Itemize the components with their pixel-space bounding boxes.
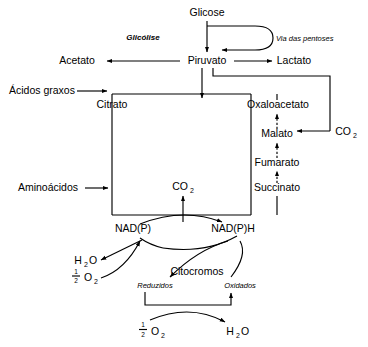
edge-half-o2-h2o-bottom — [150, 312, 225, 322]
fraction-denominator-half-o2-left: 2 — [74, 277, 78, 284]
node-label-h2o-bottom: H — [226, 325, 234, 337]
pyruvate-row-group: Acetato Piruvato Lactato — [59, 54, 311, 66]
edge-nadph-to-nadp-tail — [140, 238, 163, 248]
node-label-nadph: NAD(P)H — [211, 222, 255, 234]
node-label-co2-center: CO — [172, 180, 188, 192]
node-label-co2-right-subscript: 2 — [353, 132, 357, 139]
nadp-cycle-group: NAD(P) NAD(P)H — [115, 215, 255, 250]
edge-half-o2-nadp-junction — [101, 241, 140, 278]
node-label-co2-right: CO — [335, 125, 351, 137]
fraction-numerator-half-o2-left: 1 — [74, 268, 78, 275]
glycolysis-group: Glicose Glicólise — [126, 6, 224, 52]
node-label-h2o-left-subscript: 2 — [84, 261, 88, 268]
fraction-denominator-half-o2-bottom: 2 — [141, 331, 145, 338]
node-label-acidos-graxos: Ácidos graxos — [9, 84, 75, 96]
amino-acids-group: Aminoácidos — [18, 181, 108, 193]
node-label-acetato: Acetato — [59, 54, 95, 66]
node-label-aminoacidos: Aminoácidos — [18, 181, 78, 193]
node-label-piruvato: Piruvato — [188, 54, 227, 66]
node-label-glicose: Glicose — [189, 6, 224, 18]
cytochromes-group: Citocromos Reduzidos Oxidados — [137, 241, 256, 305]
node-label-o2-left-subscript: 2 — [94, 278, 98, 285]
edge-reduzidos-oxidados-link — [145, 292, 231, 305]
node-label-o2-left: O — [84, 271, 92, 283]
node-label-lactato: Lactato — [277, 54, 312, 66]
edge-citocromos-oxidados-nadph — [231, 241, 243, 277]
water-oxygen-left-group: H 2 O 1 2 O 2 — [72, 240, 142, 285]
diagram-canvas: Glicose Glicólise Via das pentoses Aceta… — [0, 0, 368, 347]
node-label-h2o-bottom-subscript: 2 — [236, 332, 240, 339]
pentose-pathway-group: Via das pentoses — [207, 26, 334, 50]
label-glicolise: Glicólise — [126, 33, 160, 42]
node-label-co2-center-subscript: 2 — [190, 187, 194, 194]
co2-fixation-group: CO 2 — [297, 125, 357, 139]
node-label-nadp: NAD(P) — [115, 222, 151, 234]
edge-nadph-to-nadp — [163, 236, 237, 250]
label-oxidados: Oxidados — [224, 281, 256, 290]
node-label-o2-bottom: O — [151, 325, 159, 337]
metabolic-pathway-diagram: Glicose Glicólise Via das pentoses Aceta… — [0, 0, 368, 347]
node-label-citrato: Citrato — [97, 98, 128, 110]
tca-right-arm-group: Oxaloacetato Malato Fumarato Succinato — [247, 94, 309, 215]
label-reduzidos: Reduzidos — [137, 281, 173, 290]
edge-nadp-to-nadph — [140, 215, 222, 224]
node-label-h2o-left: H — [74, 254, 82, 266]
node-label-oxaloacetato: Oxaloacetato — [247, 98, 309, 110]
edge-nadp-junction-h2o — [101, 240, 142, 260]
tca-cycle-box — [112, 94, 251, 215]
node-label-h2o-bottom-tail: O — [241, 325, 249, 337]
fraction-numerator-half-o2-bottom: 1 — [141, 321, 145, 328]
node-label-o2-bottom-subscript: 2 — [161, 332, 165, 339]
terminal-oxidation-group: 1 2 O 2 H 2 O — [139, 312, 249, 339]
citrate-group: Citrato Ácidos graxos — [9, 84, 128, 110]
edge-via-pentoses — [207, 26, 273, 50]
label-citocromos: Citocromos — [170, 265, 223, 277]
node-label-h2o-left-tail: O — [89, 254, 97, 266]
label-via-das-pentoses: Via das pentoses — [276, 34, 334, 43]
